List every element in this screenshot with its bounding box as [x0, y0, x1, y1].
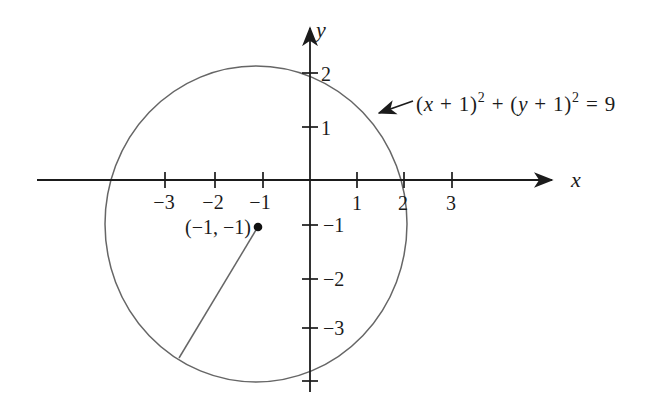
equation-seg-plus-open: + ( — [486, 92, 519, 116]
x-tick-label-1: 1 — [352, 192, 362, 214]
equation-seg-y-var: y — [516, 92, 528, 116]
equation-seg-plus-1b: + 1) — [528, 92, 572, 116]
x-tick-label-2: 2 — [398, 192, 408, 214]
x-tick-label-neg-2: −2 — [202, 191, 223, 213]
equation-seg-x-var: x — [423, 92, 434, 116]
equation-seg-exponent-2: 2 — [572, 90, 580, 105]
equation-seg-open-paren: ( — [416, 92, 424, 116]
figure-canvas: x y −3 −2 −1 1 2 3 2 1 −1 −2 −3 (−1, −1) — [0, 0, 647, 415]
center-point-dot — [254, 223, 263, 232]
x-axis-label: x — [570, 167, 581, 192]
radius-segment — [179, 230, 256, 358]
x-tick-label-neg-3: −3 — [153, 191, 174, 213]
y-axis-label: y — [314, 17, 326, 42]
equation-label: (x + 1)2 + (y + 1)2 = 9 — [416, 90, 616, 116]
circle-graph-figure: x y −3 −2 −1 1 2 3 2 1 −1 −2 −3 (−1, −1) — [0, 0, 647, 415]
equation-seg-exponent-1: 2 — [478, 90, 486, 105]
center-point-label: (−1, −1) — [185, 216, 251, 239]
equation-arrow — [379, 101, 413, 113]
x-tick-label-neg-1: −1 — [249, 191, 270, 213]
y-tick-label-neg-2: −2 — [323, 268, 344, 290]
equation-seg-plus-1: + 1) — [434, 92, 478, 116]
equation-seg-equals-9: = 9 — [580, 92, 616, 116]
y-tick-label-neg-3: −3 — [323, 317, 344, 339]
y-tick-label-neg-1: −1 — [323, 214, 344, 236]
y-tick-label-2: 2 — [321, 63, 331, 85]
x-tick-label-3: 3 — [446, 192, 456, 214]
y-tick-label-1: 1 — [321, 117, 331, 139]
